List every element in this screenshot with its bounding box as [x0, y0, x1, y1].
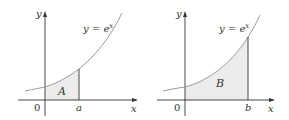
origin-label: 0 [174, 102, 180, 113]
function-label: y = ex [82, 22, 113, 34]
diagram-canvas: y x 0 a A y = ex y x 0 b B y = ex [0, 0, 289, 120]
function-label: y = ex [218, 22, 249, 34]
origin-label: 0 [34, 102, 40, 113]
x-axis-arrow-icon [132, 98, 138, 102]
bound-label-a: a [76, 102, 82, 113]
x-axis-label: x [268, 103, 274, 114]
x-axis-label: x [131, 103, 137, 114]
y-axis-arrow-icon [43, 11, 47, 17]
bound-label-b: b [245, 102, 251, 113]
y-axis-arrow-icon [183, 11, 187, 17]
y-axis-label: y [35, 8, 42, 19]
region-label-a: A [57, 85, 66, 98]
graph-left: y x 0 a A y = ex [18, 8, 138, 116]
x-axis-arrow-icon [269, 98, 275, 102]
y-axis-label: y [175, 8, 182, 19]
graph-right: y x 0 b B y = ex [157, 8, 275, 116]
region-label-b: B [215, 77, 224, 90]
region-b-fill [185, 37, 248, 100]
